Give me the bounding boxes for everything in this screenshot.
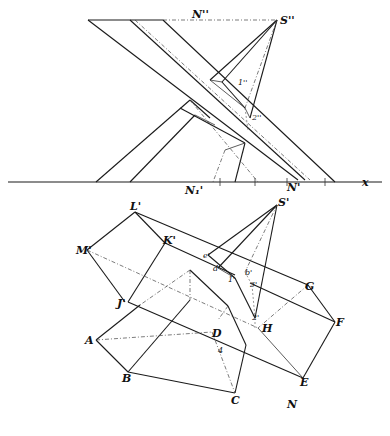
label-G: G xyxy=(305,280,314,293)
label-e-prime: e' xyxy=(203,251,210,260)
label-J-prime: J' xyxy=(115,297,126,310)
label-N: N xyxy=(286,398,298,411)
plan-view: L' K' M' J' S' e' d' 1' b' 3' 2' G F H D… xyxy=(75,196,345,411)
label-1-prime: 1' xyxy=(228,275,235,284)
label-d-prime: d' xyxy=(213,264,220,273)
label-S-double-prime: S'' xyxy=(280,14,295,27)
label-N-prime-ground: N' xyxy=(286,181,300,194)
label-x-axis: x xyxy=(361,176,369,189)
geometry-drawing: N'' S'' 1'' 2'' N₁' N' x xyxy=(0,0,390,436)
label-C: C xyxy=(231,394,240,407)
label-S-prime: S' xyxy=(278,196,289,209)
label-H: H xyxy=(261,322,273,335)
label-F: F xyxy=(335,316,345,329)
label-1-double-prime: 1'' xyxy=(238,78,248,87)
label-4: 4 xyxy=(217,346,223,355)
label-D: D xyxy=(211,327,222,340)
label-L-prime: L' xyxy=(129,200,141,213)
label-A: A xyxy=(84,334,94,347)
label-N-double-prime: N'' xyxy=(191,8,209,21)
label-N1-prime: N₁' xyxy=(184,184,203,197)
label-K-prime: K' xyxy=(162,234,176,247)
label-b-prime: b' xyxy=(245,268,252,277)
label-2-prime: 2' xyxy=(251,313,259,322)
label-M-prime: M' xyxy=(75,244,92,257)
elevation-view: N'' S'' 1'' 2'' N₁' N' x xyxy=(8,8,382,197)
label-B: B xyxy=(121,372,131,385)
label-3-prime: 3' xyxy=(250,280,257,289)
label-2-double-prime: 2'' xyxy=(251,113,262,122)
label-E: E xyxy=(299,376,309,389)
